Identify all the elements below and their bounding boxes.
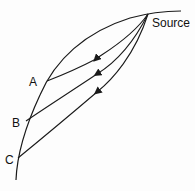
- ray-diagram: Source A B C: [0, 0, 195, 191]
- label-a: A: [29, 75, 37, 89]
- ray-to-c-tail: [18, 92, 97, 158]
- label-b: B: [12, 116, 20, 130]
- surface-curve: [16, 11, 181, 180]
- label-source: Source: [152, 16, 190, 30]
- diagram-canvas: Source A B C: [0, 0, 195, 191]
- label-c: C: [5, 153, 14, 167]
